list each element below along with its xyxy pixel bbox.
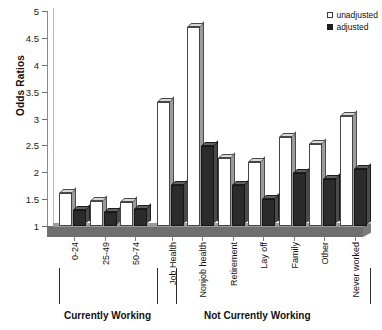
x-tick [172, 237, 173, 241]
bar-face [309, 144, 322, 226]
bar-face [248, 162, 261, 226]
odds-ratios-chart: Odds Ratios unadjusted adjusted 54.543.5… [0, 0, 382, 330]
bar-adjusted [293, 173, 306, 226]
bar-face [90, 201, 103, 226]
bar-unadjusted [120, 202, 133, 226]
bar-side [367, 163, 371, 223]
bar-adjusted [232, 185, 245, 226]
bar-adjusted [73, 210, 86, 226]
bar-face [59, 193, 72, 226]
x-axis-labels: 0-2425-4950-74Job HealthNonjob healthRet… [47, 240, 372, 300]
x-axis-label: Family [290, 242, 300, 269]
x-axis-label: Lay off [259, 242, 269, 269]
x-axis-label: Nonjob health [198, 242, 208, 298]
x-tick [74, 237, 75, 241]
bar-adjusted [104, 212, 117, 227]
bar-group [279, 11, 310, 226]
bar-adjusted [201, 146, 214, 226]
y-tick-label: 1 [34, 221, 39, 232]
bar-group [340, 11, 371, 226]
y-tick-label: 2 [34, 167, 39, 178]
bar-unadjusted [187, 27, 200, 226]
bar-series-container [47, 8, 372, 237]
bar-group [120, 11, 151, 226]
bar-group [59, 11, 90, 226]
x-axis-label: Retirement [229, 242, 239, 286]
bar-face [262, 199, 275, 226]
y-tick-label: 2.5 [26, 140, 39, 151]
x-axis-label: Never worked [351, 242, 361, 298]
bar-face [187, 27, 200, 226]
plot-area: 54.543.532.521.51 [47, 8, 372, 237]
bar-face [218, 158, 231, 226]
bar-face [104, 212, 117, 227]
x-axis-label: 50-74 [131, 242, 141, 265]
bar-unadjusted [157, 102, 170, 226]
bar-unadjusted [90, 201, 103, 226]
bar-group [187, 11, 218, 226]
bar-unadjusted [59, 193, 72, 226]
category-label-not-currently-working: Not Currently Working [204, 310, 310, 321]
x-tick [355, 237, 356, 241]
bar-unadjusted [218, 158, 231, 226]
bracket-currently-working-right [157, 268, 158, 304]
y-tick-label: 3 [34, 113, 39, 124]
bar-group [309, 11, 340, 226]
bar-face [293, 173, 306, 226]
bar-face [323, 179, 336, 226]
y-tick-label: 5 [34, 6, 39, 17]
bar-group [218, 11, 249, 226]
bracket-not-currently-working-left [176, 268, 177, 304]
bar-group [90, 11, 121, 226]
bar-adjusted [134, 209, 147, 226]
bar-adjusted [323, 179, 336, 226]
bar-face [232, 185, 245, 226]
y-tick-label: 4 [34, 59, 39, 70]
bar-unadjusted [248, 162, 261, 226]
y-tick-label: 1.5 [26, 194, 39, 205]
bar-face [157, 102, 170, 226]
x-tick [324, 237, 325, 241]
bar-face [134, 209, 147, 226]
bar-face [171, 185, 184, 226]
bar-face [73, 210, 86, 226]
x-axis-label: 0-24 [70, 242, 80, 260]
y-tick-label: 4.5 [26, 32, 39, 43]
bar-unadjusted [340, 116, 353, 226]
bar-face [120, 202, 133, 226]
x-tick [233, 237, 234, 241]
x-axis-label: 25-49 [101, 242, 111, 265]
bar-adjusted [262, 199, 275, 226]
category-label-currently-working: Currently Working [64, 310, 151, 321]
bar-face [279, 137, 292, 226]
x-axis-label: Other [320, 242, 330, 265]
bar-face [340, 116, 353, 226]
bar-unadjusted [279, 137, 292, 226]
x-tick [202, 237, 203, 241]
y-axis-title: Odds Ratios [15, 31, 26, 141]
x-tick [263, 237, 264, 241]
x-tick [105, 237, 106, 241]
bracket-currently-working-left [59, 268, 60, 304]
bar-adjusted [354, 169, 367, 227]
bar-face [354, 169, 367, 227]
x-tick [135, 237, 136, 241]
bar-group [248, 11, 279, 226]
bar-group [157, 11, 188, 226]
y-tick-label: 3.5 [26, 86, 39, 97]
bracket-not-currently-working-right [370, 268, 371, 304]
bar-adjusted [171, 185, 184, 226]
bar-unadjusted [309, 144, 322, 226]
x-tick [294, 237, 295, 241]
bar-face [201, 146, 214, 226]
